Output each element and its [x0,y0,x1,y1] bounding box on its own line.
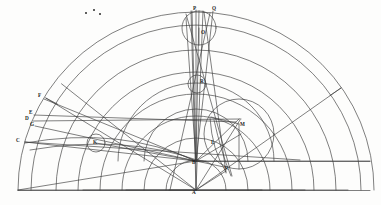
label-D: D [25,116,29,121]
label-N: N [224,166,228,171]
label-R: R [200,79,204,84]
label-A: A [192,190,196,195]
left-chord-family [25,99,300,161]
label-G: G [30,122,34,127]
diagram-canvas [0,0,381,205]
label-Q: Q [212,6,216,11]
label-F: F [38,93,41,98]
oblique-secants [170,12,232,190]
envelope-arcs [25,137,200,161]
label-O: O [201,30,205,35]
scan-speck [85,12,87,14]
label-E: E [29,110,32,115]
scan-speck [99,13,101,15]
label-P: P [193,6,196,11]
label-B: B [192,160,195,165]
label-C: C [16,138,20,143]
scan-speck [93,9,95,11]
geometric-diagram: P Q O R F E D G C K M L N B A [0,0,381,205]
label-M: M [240,122,245,127]
label-K: K [93,140,97,145]
radial-spokes-left [18,84,196,190]
label-L: L [211,140,214,145]
